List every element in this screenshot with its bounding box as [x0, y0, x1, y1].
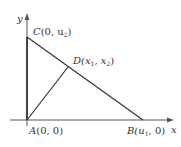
y-axis-arrow-icon: [25, 13, 30, 20]
segment-CB: [27, 37, 143, 120]
point-D-label: D(x1, x2): [73, 56, 114, 69]
x-axis-label: x: [171, 125, 177, 135]
x-axis-arrow-icon: [167, 118, 174, 123]
y-axis-label: y: [17, 14, 23, 24]
point-A-label: A(0, 0): [29, 126, 63, 136]
point-C-label: C(0, u2): [33, 27, 71, 40]
point-B-label: B(u1, 0): [127, 126, 165, 139]
segment-AD: [27, 67, 68, 120]
